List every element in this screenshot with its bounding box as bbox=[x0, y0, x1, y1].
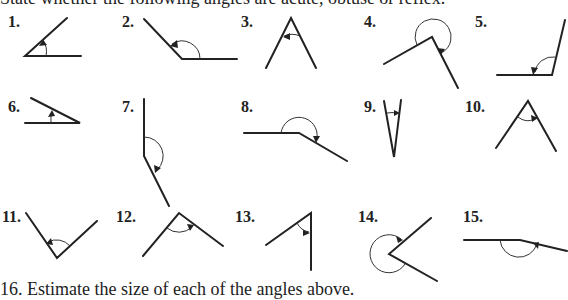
angle-figure-7 bbox=[144, 99, 169, 206]
angle-figure-12 bbox=[143, 213, 223, 256]
angle-figure-3 bbox=[266, 18, 316, 68]
angle-figure-13 bbox=[266, 213, 311, 270]
angle-figure-2 bbox=[144, 19, 237, 59]
angle-figure-6 bbox=[25, 98, 80, 123]
angle-figure-8 bbox=[244, 117, 347, 161]
question-16-text: 16. Estimate the size of each of the ang… bbox=[0, 279, 354, 300]
angle-figure-10 bbox=[496, 101, 556, 151]
angle-figure-9 bbox=[384, 100, 401, 157]
angle-figure-1 bbox=[25, 18, 81, 56]
angle-figure-15 bbox=[464, 240, 567, 257]
angle-figure-11 bbox=[26, 213, 97, 258]
angle-figure-5 bbox=[497, 20, 565, 75]
angle-figure-14 bbox=[370, 218, 437, 281]
angle-figure-4 bbox=[384, 19, 458, 88]
